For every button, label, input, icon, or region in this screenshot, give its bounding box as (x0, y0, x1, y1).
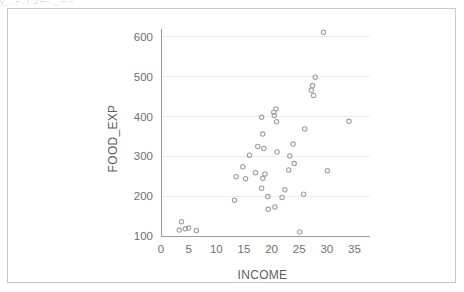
x-tick-label-15: 15 (238, 243, 251, 255)
scatter-point (256, 144, 260, 148)
axes (161, 29, 370, 236)
scatter-point (177, 228, 181, 232)
x-tick-label-5: 5 (185, 243, 191, 255)
scatter-point (298, 230, 302, 234)
x-tick-label-0: 0 (158, 243, 164, 255)
scatter-point (241, 165, 245, 169)
scatter-point (194, 228, 198, 232)
scatter-chart: 100200300400500600 05101520253035 FOOD_E… (8, 9, 457, 284)
scatter-point (309, 88, 313, 92)
y-tick-label-600: 600 (134, 31, 153, 43)
y-axis-title: FOOD_EXP (106, 105, 120, 173)
scatter-point (325, 169, 329, 173)
figure-frame: 100200300400500600 05101520253035 FOOD_E… (7, 8, 456, 283)
scatter-point (263, 172, 267, 176)
scatter-point (275, 150, 279, 154)
scatter-point (310, 83, 314, 87)
scatter-point (262, 146, 266, 150)
x-tick-label-25: 25 (293, 243, 306, 255)
scatter-point (266, 207, 270, 211)
x-tick-label-10: 10 (210, 243, 223, 255)
top-artifact-text: y_ ˍ ⌐ , ᒥ ᒧ ⌐¬ ˍ_ ⌐ ¬ (0, 0, 73, 6)
scatter-point (273, 205, 277, 209)
scatter-point (261, 132, 265, 136)
y-tick-label-200: 200 (134, 190, 153, 202)
y-tick-label-300: 300 (134, 150, 153, 162)
scatter-point (274, 107, 278, 111)
scatter-point (347, 119, 351, 123)
y-tick-label-100: 100 (134, 230, 153, 242)
scatter-points (177, 30, 351, 234)
x-axis-tick-labels: 05101520253035 (158, 243, 361, 255)
y-tick-label-400: 400 (134, 111, 153, 123)
y-tick-label-500: 500 (134, 71, 153, 83)
chart-container: 100200300400500600 05101520253035 FOOD_E… (8, 9, 457, 284)
scatter-point (243, 176, 247, 180)
scatter-point (259, 186, 263, 190)
x-tick-label-30: 30 (320, 243, 333, 255)
y-axis-tick-labels: 100200300400500600 (134, 31, 153, 242)
scatter-point (311, 93, 315, 97)
scatter-point (283, 188, 287, 192)
x-axis-title: INCOME (238, 268, 288, 282)
scatter-point (303, 127, 307, 131)
scatter-point (232, 198, 236, 202)
scatter-point (321, 30, 325, 34)
x-tick-label-35: 35 (348, 243, 361, 255)
scatter-point (286, 168, 290, 172)
scatter-point (292, 161, 296, 165)
gridlines (161, 37, 370, 236)
scatter-point (253, 171, 257, 175)
scatter-point (234, 174, 238, 178)
scatter-point (291, 142, 295, 146)
scatter-point (179, 219, 183, 223)
scatter-point (261, 176, 265, 180)
scatter-point (259, 115, 263, 119)
x-tick-label-20: 20 (265, 243, 278, 255)
scatter-point (274, 120, 278, 124)
top-edge-artifacts: y_ ˍ ⌐ , ᒥ ᒧ ⌐¬ ˍ_ ⌐ ¬ (0, 0, 464, 7)
